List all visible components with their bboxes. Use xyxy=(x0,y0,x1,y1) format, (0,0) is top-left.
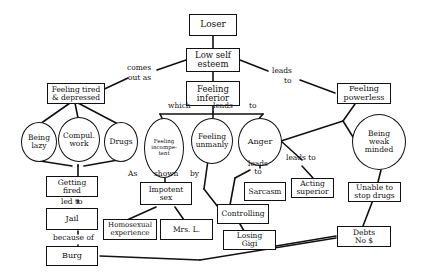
label-out-as: out as xyxy=(128,74,151,82)
node-compul-work: Compul. work xyxy=(58,117,100,162)
label-to-right: to xyxy=(284,77,292,85)
node-getting-fired: Getting fired xyxy=(46,176,98,197)
node-feeling-unmanly: Feeling unmanly xyxy=(191,118,233,164)
node-mrs-l: Mrs. L. xyxy=(160,219,213,240)
label-because-of: because of xyxy=(53,234,94,242)
node-loser: Loser xyxy=(189,14,237,36)
node-low-self-esteem: Low self esteem xyxy=(186,48,240,72)
label-by: by xyxy=(190,170,199,178)
node-impotent-sex: Impotent sex xyxy=(140,182,192,205)
node-being-weak-minded: Being weak minded xyxy=(352,114,406,170)
label-shown: shown xyxy=(154,170,178,178)
label-comes: comes xyxy=(127,64,151,72)
label-as: As xyxy=(128,170,137,178)
node-drugs: Drugs xyxy=(104,122,138,162)
label-which: which xyxy=(168,102,191,110)
label-leads-right: leads xyxy=(272,67,292,75)
label-leads-mid: leads xyxy=(213,102,233,110)
node-sarcasm: Sarcasm xyxy=(244,182,286,201)
node-acting-superior: Acting superior xyxy=(291,178,334,198)
node-debts-no-money: Debts No $ xyxy=(337,226,391,247)
label-led-to: led to xyxy=(61,198,83,206)
node-feeling-tired-depressed: Feeling tired & depressed xyxy=(47,83,105,104)
concept-map: Loser Low self esteem Feeling tired & de… xyxy=(0,0,424,278)
node-unable-to-stop-drugs: Unable to stop drugs xyxy=(348,182,401,202)
label-leads-to-acting: leads to xyxy=(286,154,316,162)
node-burg: Burg xyxy=(46,246,98,266)
node-losing-gigi: Losing Gigi xyxy=(223,230,276,250)
node-jail: Jail xyxy=(46,208,98,230)
node-homosexual-experience: Homosexual experience xyxy=(103,219,157,240)
node-being-lazy: Being lazy xyxy=(21,122,57,162)
label-to-mid: to xyxy=(249,102,257,110)
node-controlling: Controlling xyxy=(217,204,269,224)
label-leads-to-anger: leads to xyxy=(248,160,268,177)
node-feeling-powerless: Feeling powerless xyxy=(337,83,391,104)
